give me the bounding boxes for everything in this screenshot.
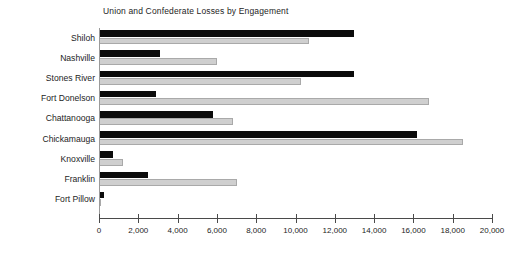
y-axis-label-chickamauga: Chickamauga <box>3 134 95 144</box>
x-tick-label: 16,000 <box>401 226 425 236</box>
x-tick-mark <box>256 214 257 223</box>
x-tick-label: 2,000 <box>128 226 148 236</box>
y-axis-label-stones-river: Stones River <box>3 73 95 83</box>
x-tick-mark <box>99 214 100 223</box>
bar-confederate-stones-river <box>99 78 301 85</box>
bar-confederate-shiloh <box>99 38 309 45</box>
bar-group-knoxville <box>99 149 492 169</box>
y-axis-label-chattanooga: Chattanooga <box>3 113 95 123</box>
bar-group-fort-pillow <box>99 190 492 210</box>
bar-group-shiloh <box>99 28 492 48</box>
bar-confederate-chattanooga <box>99 118 233 125</box>
bar-union-chattanooga <box>99 111 213 118</box>
chart-title: Union and Confederate Losses by Engageme… <box>103 6 288 17</box>
x-tick-mark <box>453 214 454 223</box>
bar-confederate-knoxville <box>99 159 123 166</box>
bar-confederate-nashville <box>99 58 217 65</box>
bar-confederate-fort-donelson <box>99 98 429 105</box>
bar-chart: Union and Confederate Losses by Engageme… <box>0 0 530 263</box>
y-axis-label-shiloh: Shiloh <box>3 33 95 43</box>
x-tick-mark <box>335 214 336 223</box>
bar-union-knoxville <box>99 151 113 158</box>
bar-union-franklin <box>99 172 148 179</box>
x-tick-label: 10,000 <box>283 226 307 236</box>
x-tick-label: 4,000 <box>168 226 188 236</box>
y-axis-label-knoxville: Knoxville <box>3 154 95 164</box>
bar-confederate-chickamauga <box>99 139 463 146</box>
x-tick-mark <box>492 214 493 223</box>
bar-confederate-franklin <box>99 179 237 186</box>
x-tick-mark <box>217 214 218 223</box>
x-tick-mark <box>413 214 414 223</box>
y-axis-label-fort-pillow: Fort Pillow <box>3 194 95 204</box>
bar-group-fort-donelson <box>99 89 492 109</box>
x-tick-label: 12,000 <box>323 226 347 236</box>
x-tick-label: 18,000 <box>440 226 464 236</box>
bar-group-franklin <box>99 169 492 189</box>
bar-group-nashville <box>99 48 492 68</box>
x-tick-mark <box>178 214 179 223</box>
y-axis-label-franklin: Franklin <box>3 174 95 184</box>
bar-group-chickamauga <box>99 129 492 149</box>
bar-union-shiloh <box>99 30 354 37</box>
x-tick-mark <box>138 214 139 223</box>
bar-union-nashville <box>99 50 160 57</box>
x-tick-label: 20,000 <box>480 226 504 236</box>
x-tick-label: 6,000 <box>207 226 227 236</box>
bar-union-chickamauga <box>99 131 417 138</box>
bar-group-stones-river <box>99 68 492 88</box>
bar-union-stones-river <box>99 71 354 78</box>
bar-group-chattanooga <box>99 109 492 129</box>
x-tick-mark <box>374 214 375 223</box>
x-tick-label: 8,000 <box>246 226 266 236</box>
plot-area <box>99 28 492 214</box>
y-axis-label-nashville: Nashville <box>3 53 95 63</box>
x-tick-label: 14,000 <box>362 226 386 236</box>
x-tick-label: 0 <box>97 226 101 236</box>
x-tick-mark <box>296 214 297 223</box>
y-axis-category-labels: ShilohNashvilleStones RiverFort Donelson… <box>0 28 95 214</box>
y-axis-line <box>99 28 100 218</box>
bar-union-fort-donelson <box>99 91 156 98</box>
y-axis-label-fort-donelson: Fort Donelson <box>3 93 95 103</box>
